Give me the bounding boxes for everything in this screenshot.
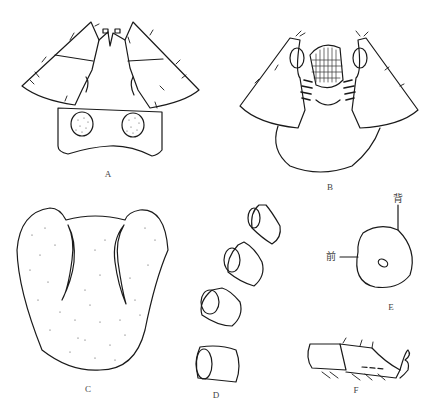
panel-label-b: B: [327, 183, 333, 192]
panel-b-comb-texture: [312, 48, 342, 82]
annotation-dorsal: 背: [393, 194, 403, 204]
panel-b-dense-hatching: [301, 80, 355, 100]
panel-label-c: C: [85, 385, 91, 394]
panel-c-drawing: [17, 208, 168, 370]
panel-c-stipple: [29, 227, 155, 360]
annotation-anterior: 前: [326, 252, 336, 262]
panel-d-drawing: [196, 205, 280, 382]
panel-label-f: F: [353, 386, 358, 395]
panel-e-drawing: [340, 205, 412, 288]
panel-label-d: D: [213, 391, 220, 400]
panel-a-stipple: [75, 117, 139, 133]
panel-label-e: E: [388, 303, 394, 312]
figure-drawings: [0, 0, 432, 409]
panel-f-drawing: [308, 338, 410, 380]
panel-label-a: A: [105, 170, 112, 179]
panel-a-drawing: [22, 22, 199, 156]
panel-b-drawing: [240, 31, 418, 172]
